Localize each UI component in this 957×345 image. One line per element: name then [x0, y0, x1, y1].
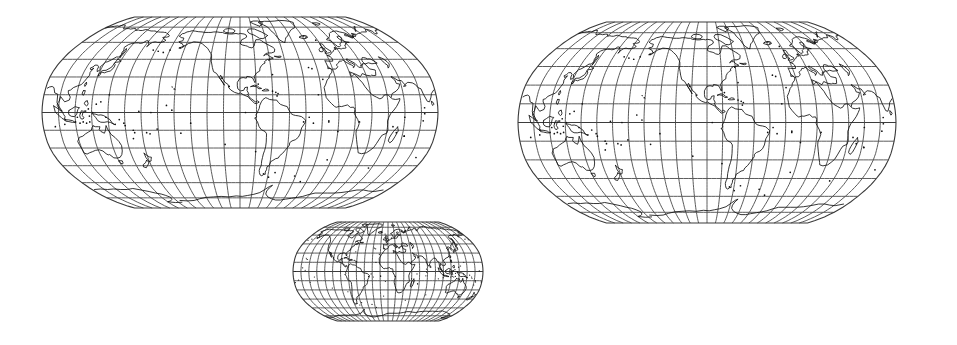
coastline-path [93, 114, 115, 125]
island-marker [689, 86, 691, 88]
island-marker [453, 276, 454, 277]
island-marker [457, 271, 458, 272]
map-svg [42, 17, 438, 208]
island-marker [604, 149, 606, 151]
map-panel-right[interactable] [518, 22, 896, 223]
island-marker [737, 82, 739, 84]
island-marker [361, 302, 362, 303]
island-marker [460, 265, 461, 266]
coastline-path [740, 63, 746, 65]
island-marker [322, 78, 324, 80]
island-marker [425, 294, 426, 295]
island-marker [392, 126, 394, 128]
island-marker [781, 103, 783, 105]
island-marker [64, 123, 66, 125]
island-marker [606, 143, 608, 145]
island-marker [415, 157, 417, 159]
island-marker [100, 101, 102, 103]
island-marker [610, 120, 612, 122]
island-marker [413, 281, 414, 282]
island-marker [157, 50, 159, 52]
island-marker [530, 137, 532, 139]
island-marker [557, 132, 559, 134]
island-marker [311, 239, 312, 240]
island-marker [424, 113, 426, 115]
island-marker [881, 130, 883, 132]
island-marker [375, 262, 376, 263]
island-marker [604, 140, 606, 142]
island-marker [303, 121, 305, 123]
island-marker [347, 291, 348, 292]
island-marker [150, 112, 152, 114]
island-marker [569, 113, 571, 115]
island-marker [179, 47, 181, 49]
island-marker [573, 110, 575, 112]
island-marker [359, 121, 361, 123]
island-marker [426, 272, 427, 273]
island-marker [767, 41, 769, 43]
island-marker [471, 276, 472, 277]
coastline-path [559, 91, 561, 95]
coastline-path [849, 138, 859, 155]
island-marker [578, 127, 580, 129]
island-marker [272, 90, 274, 92]
island-marker [650, 143, 652, 145]
island-marker [776, 133, 778, 135]
island-marker [146, 132, 148, 134]
island-marker [820, 132, 822, 134]
island-marker [294, 175, 296, 177]
island-marker [380, 231, 381, 232]
map-panel-left[interactable] [42, 17, 438, 208]
island-marker [724, 92, 726, 94]
island-marker [620, 144, 622, 146]
coastline-path [275, 56, 282, 58]
island-marker [641, 119, 643, 121]
island-marker [380, 275, 381, 276]
island-marker [636, 114, 638, 116]
island-marker [255, 151, 257, 153]
island-marker [443, 275, 444, 276]
island-marker [86, 122, 88, 124]
island-marker [385, 281, 386, 282]
island-marker [376, 307, 377, 308]
island-marker [169, 49, 171, 51]
island-marker [55, 126, 57, 128]
island-marker [758, 188, 760, 190]
island-marker [405, 300, 406, 301]
island-marker [355, 251, 356, 252]
island-marker [114, 123, 116, 125]
coastline-path [782, 54, 786, 59]
coastline-path [540, 130, 550, 133]
island-marker [696, 94, 698, 96]
island-marker [448, 276, 449, 277]
island-marker [263, 173, 265, 175]
coastline-path [523, 30, 892, 121]
map-panel-small[interactable] [293, 222, 483, 321]
coastline-path [247, 29, 267, 39]
map-svg [518, 22, 896, 223]
island-marker [332, 287, 333, 288]
island-marker [302, 267, 303, 268]
island-marker [368, 276, 369, 277]
island-marker [443, 277, 444, 278]
island-marker [275, 92, 277, 94]
island-marker [721, 163, 723, 165]
coastline-path [453, 265, 455, 268]
island-marker [356, 261, 357, 262]
island-marker [425, 275, 426, 276]
coastline-path [430, 266, 431, 268]
coastline-path [554, 121, 560, 130]
island-marker [132, 129, 134, 131]
island-marker [800, 142, 802, 144]
island-marker [649, 54, 651, 56]
island-marker [562, 125, 564, 127]
island-marker [779, 46, 781, 48]
island-marker [623, 56, 625, 58]
island-marker [373, 276, 374, 277]
island-marker [303, 35, 305, 37]
island-marker [308, 116, 310, 118]
island-marker [311, 68, 313, 70]
coastline-path [84, 83, 86, 87]
island-marker [295, 271, 296, 272]
island-marker [307, 240, 308, 241]
